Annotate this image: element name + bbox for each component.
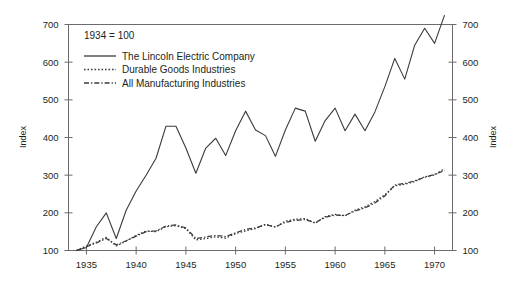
y-tick-label: 500: [463, 94, 479, 105]
x-tick-label: 1955: [275, 259, 296, 270]
y-tick-label: 600: [463, 57, 479, 68]
chart-background: [0, 0, 519, 284]
y-tick-label: 600: [43, 57, 59, 68]
x-tick-label: 1965: [374, 259, 395, 270]
y-tick-label: 300: [43, 170, 59, 181]
y-tick-label: 700: [463, 19, 479, 30]
chart-figure: 100200300400500600700 100200300400500600…: [0, 0, 519, 284]
x-tick-label: 1960: [325, 259, 346, 270]
y-tick-label: 700: [43, 19, 59, 30]
y-tick-label: 100: [463, 245, 479, 256]
x-tick-label: 1970: [424, 259, 445, 270]
y-tick-label: 100: [43, 245, 59, 256]
y-tick-label: 200: [463, 207, 479, 218]
y-axis-title-right: Index: [488, 125, 498, 148]
y-tick-label: 300: [463, 170, 479, 181]
x-tick-label: 1945: [175, 259, 196, 270]
legend-label-2: All Manufacturing Industries: [122, 78, 245, 89]
legend-label-0: The Lincoln Electric Company: [122, 51, 255, 62]
y-tick-label: 500: [43, 94, 59, 105]
base-year-note: 1934 = 100: [84, 30, 135, 41]
x-tick-label: 1935: [76, 259, 97, 270]
legend-label-1: Durable Goods Industries: [122, 64, 235, 75]
x-tick-label: 1950: [225, 259, 246, 270]
x-tick-label: 1940: [126, 259, 147, 270]
y-tick-label: 400: [43, 132, 59, 143]
y-axis-title-left: Index: [18, 125, 28, 148]
index-line-chart: 100200300400500600700 100200300400500600…: [0, 0, 519, 284]
y-tick-label: 400: [463, 132, 479, 143]
y-tick-label: 200: [43, 207, 59, 218]
